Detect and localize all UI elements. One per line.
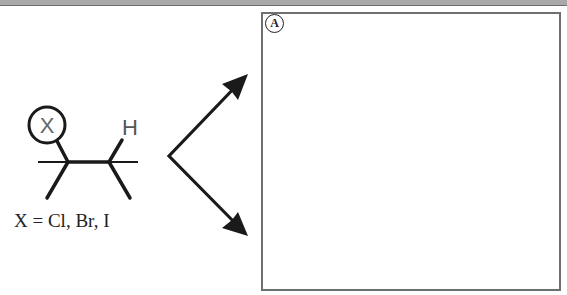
panel-badge-a: A: [265, 14, 284, 33]
hydrogen-label: H: [122, 115, 138, 140]
arrow-path: [169, 82, 240, 228]
substituent-x-label: X: [40, 113, 55, 138]
haloalkane-structure: X H: [29, 107, 138, 198]
reaction-arrows: [169, 74, 248, 236]
product-panel-a: A: [261, 12, 561, 291]
c-h-bond: [109, 140, 122, 162]
c-x-bond: [57, 141, 68, 162]
right-lower-bond: [109, 162, 130, 198]
halogen-caption: X = Cl, Br, I: [14, 210, 109, 232]
left-lower-bond: [47, 162, 68, 198]
